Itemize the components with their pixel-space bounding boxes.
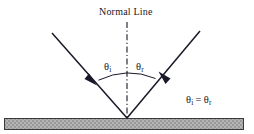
theta-r-subscript: r [141,65,144,74]
equation-operator: = [193,94,203,105]
reflecting-surface [5,119,244,130]
theta-i-subscript: i [109,65,111,74]
normal-line-label: Normal Line [99,7,153,17]
incident-ray-arrowhead [85,74,98,86]
diagram-graphics [0,0,254,134]
angle-of-reflection-label: θr [136,62,144,73]
reflection-law-equation: θi=θr [186,95,212,106]
angle-of-incidence-label: θi [104,62,111,73]
equation-right-symbol: θ [204,94,209,105]
equation-right-subscript: r [209,98,212,107]
reflection-diagram-canvas: Normal Line θi θr θi=θr [0,0,254,134]
